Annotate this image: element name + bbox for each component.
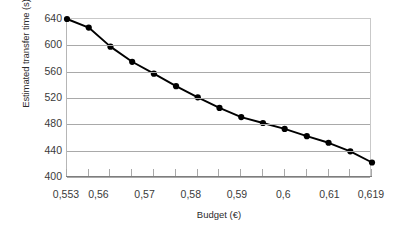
gridline bbox=[67, 177, 370, 178]
x-axis-tick bbox=[153, 169, 154, 176]
gridline bbox=[67, 98, 370, 99]
x-axis-tick bbox=[284, 169, 285, 176]
data-point-marker bbox=[64, 16, 70, 22]
x-axis-tick-label: 0,56 bbox=[88, 188, 108, 200]
x-axis-tick bbox=[131, 169, 132, 176]
y-axis-tick-label: 600 bbox=[30, 39, 62, 49]
data-point-marker bbox=[86, 24, 92, 30]
x-axis-tick bbox=[240, 169, 241, 176]
x-axis-tick bbox=[306, 169, 307, 176]
y-axis-tick-label: 440 bbox=[30, 145, 62, 155]
x-axis-tick-label: 0,6 bbox=[276, 188, 291, 200]
data-point-marker bbox=[173, 83, 179, 89]
gridline bbox=[67, 124, 370, 125]
x-axis-tick bbox=[262, 169, 263, 176]
x-axis-tick-labels: 0,5530,560,570,580,590,60,610,619 bbox=[0, 188, 399, 204]
data-point-marker bbox=[304, 133, 310, 139]
x-axis-tick-label: 0,58 bbox=[181, 188, 201, 200]
data-point-marker bbox=[369, 159, 375, 165]
transfer-time-line-chart: Estimated transfer time (s) 400440480520… bbox=[0, 0, 399, 242]
y-axis-tick-label: 400 bbox=[30, 171, 62, 181]
x-axis-tick bbox=[109, 169, 110, 176]
x-axis-tick-label: 0,553 bbox=[53, 188, 79, 200]
x-axis-tick bbox=[175, 169, 176, 176]
x-axis-tick-label: 0,619 bbox=[358, 188, 384, 200]
x-axis-tick bbox=[66, 169, 67, 176]
y-axis-tick-label: 560 bbox=[30, 66, 62, 76]
x-axis-tick bbox=[197, 169, 198, 176]
data-point-marker bbox=[282, 126, 288, 132]
gridline bbox=[67, 151, 370, 152]
x-axis-tick-label: 0,61 bbox=[319, 188, 339, 200]
y-axis-title: Estimated transfer time (s) bbox=[20, 0, 31, 134]
data-point-marker bbox=[216, 105, 222, 111]
x-axis-tick bbox=[371, 169, 372, 176]
y-axis-tick-label: 520 bbox=[30, 92, 62, 102]
x-axis-ticks bbox=[66, 169, 372, 177]
x-axis-tick-label: 0,57 bbox=[134, 188, 154, 200]
x-axis-tick bbox=[328, 169, 329, 176]
gridline bbox=[67, 72, 370, 73]
x-axis-tick-label: 0,59 bbox=[227, 188, 247, 200]
series-markers bbox=[64, 16, 375, 166]
x-axis-tick bbox=[218, 169, 219, 176]
y-axis-tick-labels: 400440480520560600640 bbox=[30, 18, 62, 176]
x-axis-tick bbox=[349, 169, 350, 176]
y-axis-tick-label: 480 bbox=[30, 118, 62, 128]
y-axis-tick-label: 640 bbox=[30, 13, 62, 23]
data-point-marker bbox=[129, 59, 135, 65]
x-axis-tick bbox=[88, 169, 89, 176]
data-point-marker bbox=[325, 140, 331, 146]
data-point-marker bbox=[238, 114, 244, 120]
plot-area bbox=[66, 18, 371, 176]
x-axis-title: Budget (€) bbox=[66, 209, 372, 220]
gridline bbox=[67, 45, 370, 46]
